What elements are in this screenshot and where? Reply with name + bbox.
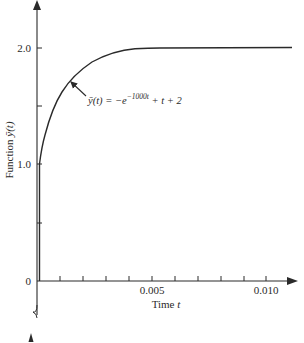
x-tick-label-0-005: 0.005 (140, 284, 165, 296)
y-axis-label-var: ȳ(t) (3, 121, 16, 138)
small-arrow-icon (29, 333, 34, 342)
series-line (40, 48, 293, 282)
y-tick-label-2-0: 2.0 (17, 42, 31, 54)
x-axis-label-text: Time (152, 298, 175, 310)
annotation-equation: ȳ(t) = −e−1000t + t + 2 (87, 92, 182, 107)
x-axis-label: Time t (152, 298, 182, 310)
equation-lhs: ȳ(t) = −e (87, 95, 127, 107)
y-axis-label-text: Function (3, 137, 15, 179)
annotation-arrow-icon (71, 82, 86, 96)
equation-rhs: + t + 2 (149, 95, 183, 106)
x-axis-label-var: t (177, 298, 181, 310)
axis-break-icon (33, 305, 37, 318)
x-tick-label-0-010: 0.010 (254, 284, 279, 296)
equation-exponent: −1000t (127, 92, 150, 101)
y-tick-label-1-0: 1.0 (17, 158, 31, 170)
y-axis-arrow-icon (33, 0, 41, 10)
y-tick-label-0: 0 (26, 275, 32, 287)
y-axis-label: Function ȳ(t) (3, 121, 16, 178)
x-axis-arrow-icon (287, 277, 298, 285)
chart-canvas: 2.0 1.0 0 0.005 0.010 Time t Function ȳ(… (0, 0, 304, 343)
